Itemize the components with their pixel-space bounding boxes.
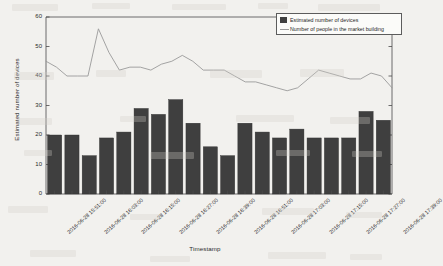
bar <box>117 132 131 194</box>
bar <box>238 123 252 194</box>
bar <box>99 138 113 194</box>
bar <box>203 147 217 194</box>
bar <box>221 156 235 194</box>
bar <box>307 138 321 194</box>
line-swatch-icon <box>280 26 289 32</box>
bar <box>134 108 148 194</box>
x-axis-label: Timestamp <box>150 245 260 252</box>
y-axis-tick-label: 60 <box>22 13 42 19</box>
bar <box>272 138 286 194</box>
chart-legend: Estimated number of devices Number of pe… <box>276 13 402 35</box>
bar-swatch-icon <box>280 17 287 23</box>
bar <box>48 135 62 194</box>
line-series <box>46 29 392 91</box>
bar <box>324 138 338 194</box>
bar <box>342 138 356 194</box>
legend-label-devices: Estimated number of devices <box>290 17 358 23</box>
bar <box>376 120 390 194</box>
bar <box>290 129 304 194</box>
y-axis-tick-label: 0 <box>22 190 42 196</box>
bar <box>82 156 96 194</box>
y-axis-tick-label: 20 <box>22 131 42 137</box>
x-axis-tick-label: 2016-06-28 17:39:00 <box>402 197 443 235</box>
bar <box>359 111 373 194</box>
legend-label-people: Number of people in the market building <box>290 26 384 32</box>
y-axis-tick-label: 40 <box>22 72 42 78</box>
bar <box>169 100 183 194</box>
bar <box>151 114 165 194</box>
y-axis-tick-label: 50 <box>22 43 42 49</box>
y-axis-label: Estimated number of devices <box>13 50 20 150</box>
y-axis-tick-label: 30 <box>22 102 42 108</box>
legend-item-people: Number of people in the market building <box>280 25 398 33</box>
legend-item-devices: Estimated number of devices <box>280 16 398 24</box>
bar <box>186 123 200 194</box>
y-axis-tick-label: 10 <box>22 161 42 167</box>
bar <box>65 135 79 194</box>
bar <box>255 132 269 194</box>
